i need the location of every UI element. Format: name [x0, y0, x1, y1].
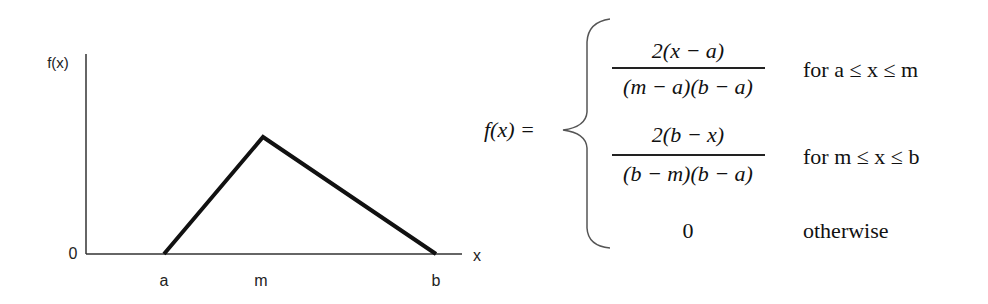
tick-label-b: b: [432, 272, 441, 290]
case2-condition: for m ≤ x ≤ b: [803, 146, 919, 168]
case1-numerator: 2(x − a): [652, 40, 724, 62]
x-axis-label: x: [473, 247, 481, 265]
tick-label-m: m: [254, 272, 267, 290]
case1-fraction-bar: [612, 67, 765, 69]
case1-condition: for a ≤ x ≤ m: [803, 59, 918, 81]
case2-fraction-bar: [612, 154, 765, 156]
case2-numerator: 2(b − x): [652, 124, 724, 146]
formula-lhs: f(x) =: [484, 119, 535, 141]
y-axis-label: f(x): [47, 54, 69, 71]
case1-denominator: (m − a)(b − a): [623, 76, 753, 98]
case3-condition: otherwise: [803, 220, 889, 242]
origin-label: 0: [69, 245, 78, 263]
case2-denominator: (b − m)(b − a): [623, 163, 753, 185]
tick-label-a: a: [160, 272, 169, 290]
case3-value: 0: [683, 220, 694, 242]
left-brace: [563, 19, 610, 248]
pdf-curve: [164, 137, 436, 254]
